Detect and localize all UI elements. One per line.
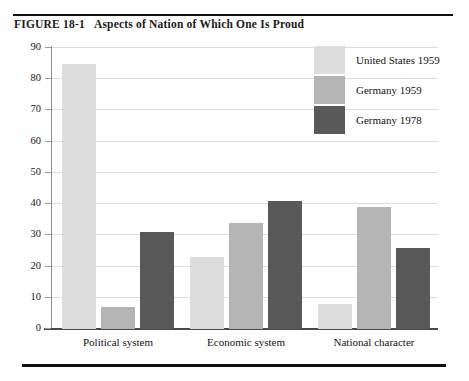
bar xyxy=(229,223,263,329)
chart-legend: United States 1959Germany 1959Germany 19… xyxy=(314,46,464,136)
x-axis-category-label: National character xyxy=(288,336,460,348)
figure-bottom-rule xyxy=(22,364,446,367)
legend-swatch xyxy=(314,46,345,74)
legend-item: United States 1959 xyxy=(314,46,464,76)
bar xyxy=(318,304,352,329)
legend-label: United States 1959 xyxy=(356,54,440,66)
legend-swatch xyxy=(314,76,345,104)
legend-swatch xyxy=(314,106,345,134)
bar xyxy=(140,232,174,329)
bar xyxy=(396,248,430,329)
legend-item: Germany 1959 xyxy=(314,76,464,106)
bar xyxy=(101,307,135,329)
bar xyxy=(190,257,224,329)
bar xyxy=(357,207,391,329)
bar xyxy=(268,201,302,329)
legend-label: Germany 1959 xyxy=(356,84,422,96)
legend-item: Germany 1978 xyxy=(314,106,464,136)
bar xyxy=(62,64,96,329)
legend-label: Germany 1978 xyxy=(356,114,422,126)
